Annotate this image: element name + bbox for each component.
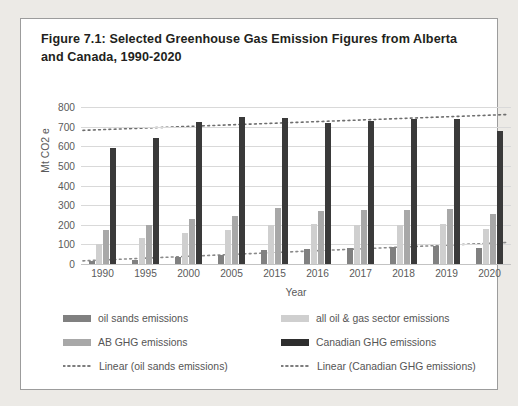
bar-cluster — [218, 107, 246, 264]
x-axis-tick-labels: 1990199520002005201520162017201820192020 — [81, 268, 511, 284]
bar-cluster — [132, 107, 160, 264]
page-background: Figure 7.1: Selected Greenhouse Gas Emis… — [0, 0, 518, 406]
figure-card: Figure 7.1: Selected Greenhouse Gas Emis… — [20, 18, 498, 390]
bar[interactable] — [347, 248, 353, 264]
x-axis-tick-label: 2020 — [468, 268, 511, 279]
legend-item[interactable]: oil sands emissions — [63, 311, 188, 325]
bar[interactable] — [318, 211, 324, 264]
y-axis-tick-label: 400 — [41, 180, 75, 191]
bar[interactable] — [404, 210, 410, 264]
legend-item[interactable]: Canadian GHG emissions — [281, 335, 436, 349]
bar[interactable] — [490, 214, 496, 264]
legend-label: Canadian GHG emissions — [316, 337, 436, 348]
bar[interactable] — [497, 131, 503, 264]
bar-cluster — [433, 107, 461, 264]
bar[interactable] — [275, 208, 281, 264]
bar-cluster — [89, 107, 117, 264]
y-axis-tick-labels: 0100200300400500600700800 — [39, 107, 75, 264]
x-axis-tick-label: 1990 — [81, 268, 124, 279]
x-axis-tick-label: 2018 — [382, 268, 425, 279]
bar[interactable] — [411, 119, 417, 264]
legend-label: AB GHG emissions — [98, 337, 188, 348]
legend-dotted-line-icon — [281, 363, 311, 370]
plot-area — [81, 107, 511, 264]
bar[interactable] — [454, 119, 460, 264]
bar[interactable] — [103, 230, 109, 264]
y-axis-tick-label: 100 — [41, 239, 75, 250]
legend-color-swatch — [63, 339, 91, 346]
bar[interactable] — [447, 209, 453, 264]
bar-cluster — [304, 107, 332, 264]
y-axis-tick-label: 800 — [41, 102, 75, 113]
x-axis-tick-label: 2017 — [339, 268, 382, 279]
legend-label: all oil & gas sector emissions — [316, 313, 449, 324]
bar[interactable] — [153, 138, 159, 264]
bar[interactable] — [268, 225, 274, 264]
bar[interactable] — [218, 255, 224, 264]
bar-cluster — [347, 107, 375, 264]
bar[interactable] — [225, 230, 231, 264]
bar[interactable] — [304, 249, 310, 264]
bar-cluster — [476, 107, 504, 264]
bar[interactable] — [354, 225, 360, 264]
x-axis-tick-label: 2016 — [296, 268, 339, 279]
bar[interactable] — [282, 118, 288, 264]
bar[interactable] — [397, 225, 403, 264]
bar[interactable] — [139, 238, 145, 264]
bar[interactable] — [189, 219, 195, 264]
bar-cluster — [175, 107, 203, 264]
bar[interactable] — [96, 244, 102, 264]
legend-color-swatch — [281, 315, 309, 322]
bar[interactable] — [368, 121, 374, 264]
bar[interactable] — [390, 247, 396, 264]
x-axis-tick-label: 2000 — [167, 268, 210, 279]
chart-legend: oil sands emissionsall oil & gas sector … — [63, 311, 483, 377]
legend-label: Linear (oil sands emissions) — [99, 361, 228, 372]
bar[interactable] — [196, 122, 202, 264]
bar[interactable] — [132, 260, 138, 264]
bar[interactable] — [433, 246, 439, 264]
y-axis-tick-label: 300 — [41, 200, 75, 211]
x-axis-title: Year — [81, 287, 511, 298]
legend-item[interactable]: all oil & gas sector emissions — [281, 311, 449, 325]
bar-cluster — [390, 107, 418, 264]
x-axis-tick-label: 2015 — [253, 268, 296, 279]
bar[interactable] — [440, 224, 446, 264]
bar-cluster — [261, 107, 289, 264]
x-axis-tick-label: 2005 — [210, 268, 253, 279]
y-axis-tick-label: 0 — [41, 259, 75, 270]
bar[interactable] — [110, 148, 116, 264]
bar[interactable] — [325, 123, 331, 264]
legend-label: oil sands emissions — [98, 313, 188, 324]
x-axis-tick-label: 1995 — [124, 268, 167, 279]
y-axis-tick-label: 600 — [41, 141, 75, 152]
bar[interactable] — [175, 257, 181, 264]
y-axis-tick-label: 500 — [41, 160, 75, 171]
bar[interactable] — [239, 117, 245, 264]
legend-item[interactable]: Linear (Canadian GHG emissions) — [281, 359, 476, 373]
bar[interactable] — [311, 224, 317, 264]
bar[interactable] — [232, 216, 238, 264]
y-axis-tick-label: 700 — [41, 121, 75, 132]
bar[interactable] — [483, 229, 489, 264]
bar[interactable] — [476, 248, 482, 264]
bar[interactable] — [261, 250, 267, 264]
bar[interactable] — [146, 225, 152, 264]
legend-color-swatch — [63, 315, 91, 322]
y-axis-tick-label: 200 — [41, 219, 75, 230]
legend-label: Linear (Canadian GHG emissions) — [317, 361, 476, 372]
gridline — [81, 264, 511, 265]
legend-color-swatch — [281, 339, 309, 346]
bar[interactable] — [89, 261, 95, 264]
x-axis-tick-label: 2019 — [425, 268, 468, 279]
bar[interactable] — [361, 210, 367, 264]
bar[interactable] — [182, 233, 188, 264]
legend-dotted-line-icon — [63, 363, 93, 370]
page-title: Figure 7.1: Selected Greenhouse Gas Emis… — [41, 31, 481, 67]
legend-item[interactable]: Linear (oil sands emissions) — [63, 359, 228, 373]
legend-item[interactable]: AB GHG emissions — [63, 335, 188, 349]
